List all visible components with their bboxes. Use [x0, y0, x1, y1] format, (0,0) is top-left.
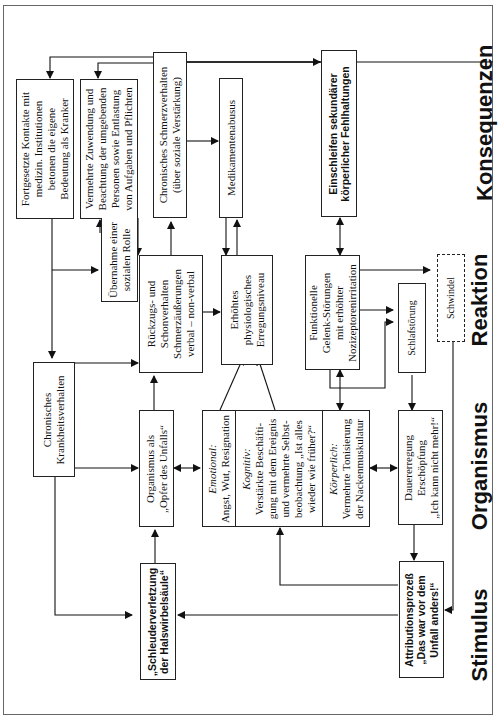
heading: Körperlich:	[327, 418, 340, 519]
line: „Opfer des Unfalls“	[157, 425, 170, 513]
box-attributionsprozess: Attributionsprozeß „Das war vor dem Unfa…	[399, 561, 444, 678]
line: „Schleuderverletzung	[146, 567, 158, 676]
line: körperlicher Fehlhaltungen	[339, 66, 351, 201]
box-emotional: Emotional: Angst, Wut, Resignation	[202, 410, 236, 527]
line: Gelenk-Störungen	[320, 264, 333, 362]
line: Unfall anders!“	[428, 573, 440, 667]
line: Schmerzäußerungen	[171, 269, 184, 359]
line: Chronisches	[41, 375, 54, 464]
box-text: Emotional: Angst, Wut, Resignation	[206, 414, 232, 522]
box-text: Übernahme einer sozialen Rolle	[107, 221, 133, 297]
stage-label-organismus: Organismus	[467, 401, 493, 531]
box-fortgesetzte-kontakte: Fortgesetzte Kontakte mit medizin. Insti…	[16, 79, 74, 219]
line: betonen die eigene	[45, 92, 58, 206]
box-funktionelle-gelenkstoerungen: Funktionelle Gelenk-Störungen mit erhöht…	[305, 255, 360, 370]
line: Chronisches Schmerzverhalten	[157, 67, 170, 204]
line: physiologisches	[241, 273, 254, 348]
box-text: Fortgesetzte Kontakte mit medizin. Insti…	[19, 92, 71, 206]
line: Fortgesetzte Kontakte mit	[19, 92, 32, 206]
line: der Nackenmuskulatur	[352, 418, 365, 519]
stage-label-konsequenzen: Konsequenzen	[472, 61, 498, 201]
line: Schonverhalten	[158, 269, 171, 359]
line: Übernahme einer	[107, 221, 120, 297]
box-text: Schwindel	[445, 277, 457, 319]
line: Krankheitsverhalten	[54, 375, 67, 464]
line: Einschleifen sekundärer	[327, 66, 339, 201]
line: Bedeutung als Kranker	[58, 92, 71, 206]
box-einschleifen: Einschleifen sekundärer körperlicher Feh…	[321, 50, 357, 217]
box-koerperlich: Körperlich: Vermehrte Tonisierung der Na…	[322, 410, 370, 527]
line: medizin. Institutionen	[32, 92, 45, 206]
line: Verstärkte Beschäfti-	[253, 418, 266, 519]
line: Organismus als	[144, 425, 157, 513]
heading: Emotional:	[206, 414, 219, 522]
line: Attributionsprozeß	[403, 573, 415, 667]
line: Beachtung der umgebenden	[96, 87, 109, 211]
box-schleuderverletzung: „Schleuderverletzung der Halswirbelsäule…	[140, 563, 176, 680]
line: Angst, Wut, Resignation	[219, 414, 232, 522]
box-kognitiv: Kognitiv: Verstärkte Beschäfti- gung mit…	[235, 410, 323, 527]
box-dauererregung: Dauererregung Erschöpfung „Ich kann nich…	[398, 410, 443, 525]
box-text: Vermehrte Zuwendung und Beachtung der um…	[83, 87, 135, 211]
box-organismus-opfer: Organismus als „Opfer des Unfalls“	[139, 410, 174, 527]
line: sozialen Rolle	[120, 221, 133, 297]
line: Vermehrte Tonisierung	[340, 418, 353, 519]
line: Medikamentenabusus	[225, 100, 238, 196]
line: Erhöhtes	[228, 273, 241, 348]
line: (über soziale Verstärkung)	[170, 67, 183, 204]
box-schwindel: Schwindel	[437, 254, 465, 342]
box-text: Rückzugs- und Schonverhalten Schmerzäuße…	[145, 269, 197, 359]
box-chronisches-schmerzverhalten: Chronisches Schmerzverhalten (über sozia…	[153, 52, 187, 218]
line: Funktionelle	[307, 264, 320, 362]
line: beobachtung „Ist alles	[292, 418, 305, 519]
box-vermehrte-zuwendung: Vermehrte Zuwendung und Beachtung der um…	[80, 79, 138, 219]
box-text: Funktionelle Gelenk-Störungen mit erhöht…	[307, 264, 359, 362]
box-medikamentenabusus: Medikamentenabusus	[219, 78, 243, 218]
box-text: Schlafstörung	[406, 300, 418, 356]
box-uebernahme-rolle: Übernahme einer sozialen Rolle	[101, 218, 138, 302]
box-chronisches-krankheitsverhalten: Chronisches Krankheitsverhalten	[33, 362, 75, 477]
box-text: Körperlich: Vermehrte Tonisierung der Na…	[327, 418, 366, 519]
box-text: Chronisches Schmerzverhalten (über sozia…	[157, 67, 183, 204]
box-text: Erhöhtes physiologisches Erregungsniveau	[228, 273, 267, 348]
line: verbal – non-verbal	[184, 269, 197, 359]
line: der Halswirbelsäule“	[158, 567, 170, 676]
box-text: Medikamentenabusus	[225, 100, 238, 196]
box-text: Kognitiv: Verstärkte Beschäfti- gung mit…	[240, 418, 318, 519]
line: Personen sowie Entlastung	[109, 87, 122, 211]
line: mit erhöhter	[333, 264, 346, 362]
box-text: Chronisches Krankheitsverhalten	[41, 375, 67, 464]
box-schlafstoerung: Schlafstörung	[398, 283, 426, 373]
box-erhoehtes-erregungsniveau: Erhöhtes physiologisches Erregungsniveau	[221, 255, 273, 365]
box-text: „Schleuderverletzung der Halswirbelsäule…	[146, 567, 171, 676]
line: Erregungsniveau	[253, 273, 266, 348]
line: Rückzugs- und	[145, 269, 158, 359]
line: von Aufgaben und Pflichten	[122, 87, 135, 211]
line: Vermehrte Zuwendung und	[83, 87, 96, 211]
line: Dauererregung	[401, 417, 414, 519]
heading: Kognitiv:	[240, 418, 253, 519]
stage-label-stimulus: Stimulus	[467, 580, 493, 690]
box-text: Attributionsprozeß „Das war vor dem Unfa…	[403, 573, 440, 667]
line: gung mit dem Ereignis	[266, 418, 279, 519]
line: Schlafstörung	[406, 300, 418, 356]
stage-label-reaktion: Reaktion	[467, 250, 493, 350]
box-text: Einschleifen sekundärer körperlicher Feh…	[327, 66, 352, 201]
line: „Ich kann nicht mehr!“	[427, 417, 440, 519]
line: und vermehrte Selbst-	[279, 418, 292, 519]
box-text: Dauererregung Erschöpfung „Ich kann nich…	[401, 417, 440, 519]
line: Erschöpfung	[414, 417, 427, 519]
box-text: Organismus als „Opfer des Unfalls“	[144, 425, 170, 513]
box-rueckzug-schonverhalten: Rückzugs- und Schonverhalten Schmerzäuße…	[139, 255, 203, 373]
line: wieder wie früher?“	[305, 418, 318, 519]
line: „Das war vor dem	[415, 573, 427, 667]
line: Schwindel	[445, 277, 457, 319]
line: Nozizeptorenirritation	[345, 264, 358, 362]
